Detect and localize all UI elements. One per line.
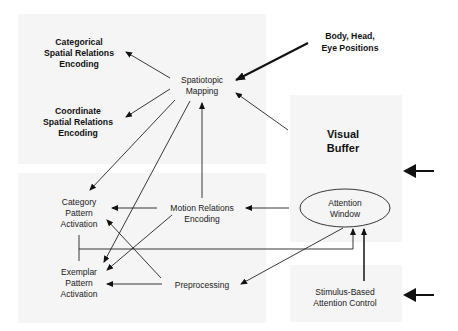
svg-text:Encoding: Encoding [184, 214, 220, 224]
svg-text:Encoding: Encoding [58, 128, 98, 138]
svg-text:Attention Control: Attention Control [313, 298, 376, 308]
svg-text:Preprocessing: Preprocessing [175, 280, 230, 290]
svg-text:Spatial Relations: Spatial Relations [43, 117, 113, 127]
svg-text:Coordinate: Coordinate [55, 106, 101, 116]
panel-visual-buffer [290, 95, 402, 242]
node-exemplar-pattern-activation: Exemplar Pattern Activation [61, 267, 98, 299]
svg-text:Visual: Visual [327, 128, 359, 140]
diagram-canvas: Categorical Spatial Relations Encoding C… [0, 0, 458, 331]
svg-text:Categorical: Categorical [55, 37, 102, 47]
node-body-head-eye-positions: Body, Head, Eye Positions [322, 31, 379, 53]
svg-text:Pattern: Pattern [65, 208, 93, 218]
input-arrow-visual-buffer [403, 164, 434, 178]
svg-text:Motion Relations: Motion Relations [170, 203, 233, 213]
node-stimulus-based-attention-control: Stimulus-Based Attention Control [313, 287, 376, 308]
panel-bottom-left [18, 173, 266, 323]
svg-text:Stimulus-Based: Stimulus-Based [315, 287, 375, 297]
svg-text:Eye Positions: Eye Positions [322, 43, 379, 53]
svg-text:Body, Head,: Body, Head, [325, 31, 375, 41]
svg-text:Window: Window [330, 209, 361, 219]
svg-text:Exemplar: Exemplar [61, 267, 97, 277]
svg-text:Spatiotopic: Spatiotopic [181, 75, 224, 85]
node-preprocessing: Preprocessing [175, 280, 230, 290]
svg-text:Attention: Attention [328, 198, 362, 208]
svg-text:Buffer: Buffer [327, 142, 360, 154]
node-category-pattern-activation: Category Pattern Activation [61, 197, 98, 229]
svg-text:Encoding: Encoding [59, 59, 99, 69]
svg-text:Category: Category [62, 197, 97, 207]
svg-text:Mapping: Mapping [186, 86, 219, 96]
svg-text:Activation: Activation [61, 219, 98, 229]
svg-text:Activation: Activation [61, 289, 98, 299]
node-spatiotopic-mapping: Spatiotopic Mapping [181, 75, 224, 96]
svg-text:Spatial Relations: Spatial Relations [44, 48, 114, 58]
input-arrow-stimulus [403, 288, 434, 302]
svg-text:Pattern: Pattern [65, 278, 93, 288]
